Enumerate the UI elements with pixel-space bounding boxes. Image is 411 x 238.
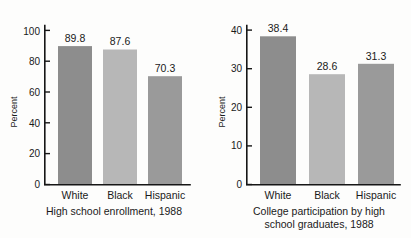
y-tick-label: 40 bbox=[29, 118, 41, 129]
bar-hispanic-left bbox=[148, 76, 182, 184]
chart-caption-left: High school enrollment, 1988 bbox=[46, 205, 182, 217]
x-category-label: Black bbox=[107, 189, 133, 201]
y-tick-label: 10 bbox=[231, 140, 243, 151]
chart-college-participation: Percent 0 10 20 30 40 38.4 28.6 31.3 bbox=[206, 0, 411, 238]
y-tick-label: 20 bbox=[231, 102, 243, 113]
x-category-label: Hispanic bbox=[145, 189, 185, 201]
bar-value-label: 89.8 bbox=[65, 32, 86, 44]
y-tick-label: 100 bbox=[23, 26, 40, 37]
y-axis-title-right: Percent bbox=[217, 96, 227, 128]
x-category-label: Black bbox=[314, 189, 340, 201]
bar-value-label: 87.6 bbox=[110, 35, 131, 47]
y-tick-label: 0 bbox=[236, 179, 242, 190]
bar-value-label: 38.4 bbox=[268, 22, 289, 34]
bar-white-left bbox=[58, 46, 92, 184]
chart-canvas-left: Percent 0 20 40 60 80 100 89.8 bbox=[0, 0, 206, 238]
x-category-label: White bbox=[265, 189, 292, 201]
y-tick-label: 0 bbox=[34, 179, 40, 190]
bar-value-label: 70.3 bbox=[155, 62, 176, 74]
bar-hispanic-right bbox=[358, 64, 394, 185]
chart-caption-right-line2: school graduates, 1988 bbox=[264, 218, 373, 230]
y-tick-label: 40 bbox=[231, 25, 243, 36]
y-tick-label: 30 bbox=[231, 63, 243, 74]
chart-canvas-right: Percent 0 10 20 30 40 38.4 28.6 31.3 bbox=[206, 0, 411, 238]
bar-value-label: 31.3 bbox=[366, 50, 387, 62]
x-category-label: White bbox=[62, 189, 89, 201]
bar-black-right bbox=[309, 74, 345, 184]
bar-value-label: 28.6 bbox=[317, 60, 338, 72]
chart-caption-right-line1: College participation by high bbox=[253, 205, 385, 217]
figure-page: Percent 0 20 40 60 80 100 89.8 bbox=[0, 0, 411, 238]
bar-white-right bbox=[260, 36, 296, 184]
y-tick-label: 20 bbox=[29, 148, 41, 159]
bar-black-left bbox=[103, 50, 137, 185]
chart-high-school-enrollment: Percent 0 20 40 60 80 100 89.8 bbox=[0, 0, 206, 238]
y-tick-label: 60 bbox=[29, 87, 41, 98]
y-axis-title-left: Percent bbox=[9, 96, 19, 128]
y-tick-label: 80 bbox=[29, 56, 41, 67]
x-category-label: Hispanic bbox=[356, 189, 396, 201]
